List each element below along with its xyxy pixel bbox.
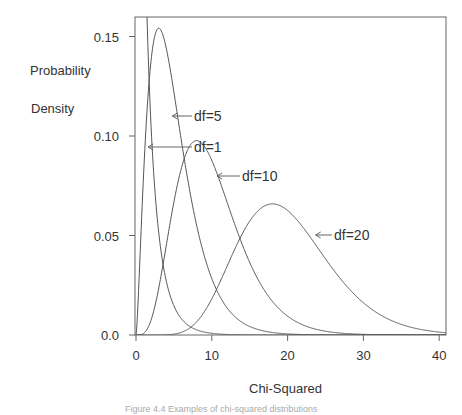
x-tick-label: 10 [205,348,219,363]
y-axis-label-line2: Density [31,101,74,116]
annotation-df-10: df=10 [242,168,278,184]
y-tick-label: 0.10 [94,129,119,144]
annotation-df-5: df=5 [194,108,222,124]
x-tick-label: 20 [280,348,294,363]
y-tick-label: 0.0 [101,328,119,343]
figure-caption: Figure 4.4 Examples of chi-squared distr… [125,404,318,414]
x-tick-label: 40 [432,348,446,363]
curve-df-1 [136,0,447,335]
y-tick-label: 0.15 [94,30,119,45]
x-tick-label: 0 [132,348,139,363]
x-tick-label: 30 [356,348,370,363]
x-axis-title: Chi-Squared [249,381,322,396]
annotation-df-1: df=1 [194,139,222,155]
curve-df-5 [136,28,447,335]
curve-df-20 [136,204,447,335]
curve-df-10 [136,141,447,335]
y-tick-label: 0.05 [94,229,119,244]
plot-frame [135,17,446,335]
annotation-df-20: df=20 [334,227,370,243]
y-axis-label-line1: Probability [30,63,91,78]
